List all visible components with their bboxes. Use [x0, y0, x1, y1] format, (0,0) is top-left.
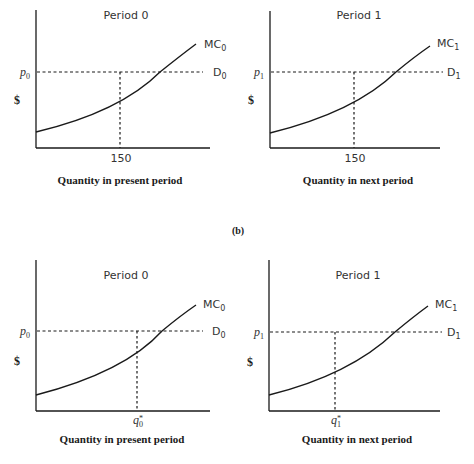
panel-title: Period 0 — [104, 9, 149, 22]
panel-title: Period 1 — [336, 269, 381, 282]
y-axis-label: $ — [247, 355, 253, 369]
mc-curve — [269, 306, 428, 395]
mc-label: MC0 — [203, 298, 225, 313]
price-label: p0 — [19, 65, 30, 81]
y-axis-label: $ — [14, 93, 20, 107]
x-axis-label: Quantity in next period — [302, 433, 412, 445]
mc-label: MC1 — [437, 37, 459, 52]
price-label: p1 — [253, 325, 264, 341]
x-axis-label: Quantity in present period — [60, 433, 185, 445]
demand-label: D1 — [447, 66, 461, 81]
price-label: p0 — [19, 324, 30, 340]
section-label: (b) — [232, 225, 244, 237]
demand-label: D0 — [213, 66, 227, 81]
mc-label: MC1 — [435, 298, 457, 313]
mc-curve — [36, 44, 196, 132]
y-axis-label: $ — [248, 93, 254, 107]
figure-canvas: Period 0 p0 $ MC0 D0 150 Quantity in pre… — [0, 0, 474, 464]
optimal-star: * — [139, 414, 143, 423]
quantity-tick-label: 150 — [345, 152, 366, 165]
mc-curve — [270, 46, 430, 133]
panel-title: Period 0 — [104, 269, 149, 282]
quantity-tick-label: 150 — [111, 152, 132, 165]
optimal-star: * — [337, 414, 341, 423]
panel-top-right: Period 1 p1 $ MC1 D1 150 Quantity in nex… — [248, 9, 461, 186]
demand-label: D0 — [212, 325, 226, 340]
price-label: p1 — [253, 65, 264, 81]
panel-bottom-left: Period 0 p0 $ MC0 D0 q0 * Quantity in pr… — [14, 260, 226, 445]
mc-label: MC0 — [204, 38, 226, 53]
demand-label: D1 — [447, 326, 461, 341]
y-axis-label: $ — [14, 354, 20, 368]
x-axis-label: Quantity in next period — [303, 174, 413, 186]
panel-top-left: Period 0 p0 $ MC0 D0 150 Quantity in pre… — [14, 9, 227, 186]
panel-title: Period 1 — [337, 9, 382, 22]
x-axis-label: Quantity in present period — [58, 174, 183, 186]
panel-bottom-right: Period 1 p1 $ MC1 D1 q1 * Quantity in ne… — [247, 260, 461, 445]
mc-curve — [36, 305, 196, 395]
